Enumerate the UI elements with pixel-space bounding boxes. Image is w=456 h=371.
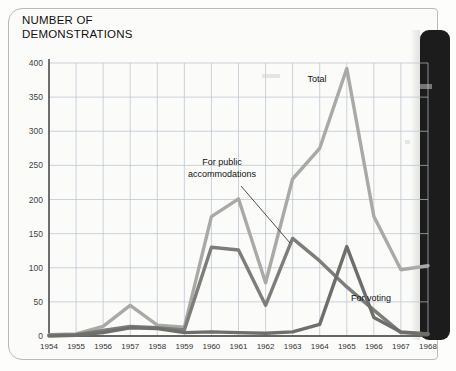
x-axis-tick-label: 1966 <box>365 342 383 351</box>
x-axis-tick-label: 1957 <box>121 342 139 351</box>
series-label-public-accommodations-line2: accommodations <box>188 169 257 179</box>
x-axis-tick-label: 1963 <box>284 342 302 351</box>
y-axis-tick-label: 400 <box>29 58 43 68</box>
y-axis-tick-label: 350 <box>29 92 43 102</box>
series-label-total: Total <box>307 74 326 84</box>
screenshot-root: NUMBER OF DEMONSTRATIONS 050100150200250… <box>0 0 456 371</box>
x-axis-tick-label: 1965 <box>338 342 356 351</box>
y-axis-tick-label: 200 <box>29 195 43 205</box>
x-axis-tick-label: 1960 <box>203 342 221 351</box>
y-axis-tick-label: 50 <box>34 297 44 307</box>
scan-artifact <box>420 84 432 89</box>
series-label-for-voting: For voting <box>351 293 391 303</box>
scan-artifact <box>405 140 410 144</box>
x-axis-tick-label: 1964 <box>311 342 329 351</box>
x-axis-tick-label: 1954 <box>40 342 58 351</box>
line-chart: 0501001502002503003504001954195519561957… <box>0 0 456 371</box>
x-axis-tick-label: 1968 <box>419 342 437 351</box>
scan-artifact <box>262 74 280 78</box>
y-axis-tick-label: 300 <box>29 126 43 136</box>
x-axis-tick-label: 1959 <box>175 342 193 351</box>
x-axis-tick-label: 1955 <box>67 342 85 351</box>
x-axis-tick-label: 1956 <box>94 342 112 351</box>
x-axis-tick-label: 1958 <box>148 342 166 351</box>
y-axis-tick-label: 100 <box>29 263 43 273</box>
x-axis-tick-label: 1961 <box>230 342 248 351</box>
chart-plot-area: 0501001502002503003504001954195519561957… <box>0 0 456 371</box>
y-axis-tick-label: 150 <box>29 229 43 239</box>
series-label-public-accommodations-line1: For public <box>202 157 242 167</box>
x-axis-tick-label: 1967 <box>392 342 410 351</box>
y-axis-tick-label: 250 <box>29 160 43 170</box>
y-axis-tick-label: 0 <box>38 331 43 341</box>
x-axis-tick-label: 1962 <box>257 342 275 351</box>
